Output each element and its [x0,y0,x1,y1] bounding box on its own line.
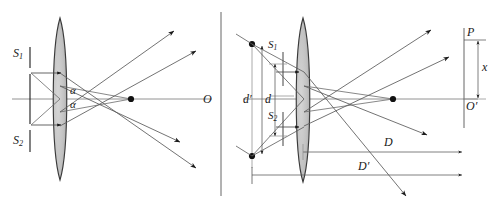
label-D: D [384,136,393,148]
label-x: x [482,61,487,73]
label-s1-left: S1 [13,47,23,61]
label-s2-right: S2 [268,110,277,122]
focus-point-right [390,96,396,102]
label-axis-point-O: O [203,93,212,105]
focus-point-left [128,96,134,102]
label-d: d [265,93,271,105]
label-axis-point-O-prime: O′ [466,100,477,112]
label-alpha-upper: α [70,85,76,96]
label-screen-point-P: P [467,26,474,38]
label-alpha-lower: α [70,99,76,110]
label-s2-left: S2 [13,134,23,148]
label-D-prime: D′ [358,160,369,172]
label-d-prime: d′ [243,93,252,105]
label-s1-right: S1 [268,39,277,51]
